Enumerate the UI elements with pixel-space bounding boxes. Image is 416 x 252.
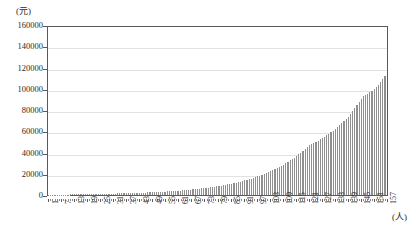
x-axis-tick-mark xyxy=(204,199,205,202)
x-axis-tick-label: 19 xyxy=(91,196,99,204)
x-axis-tick-mark xyxy=(87,199,88,202)
x-axis-tick-label: 37 xyxy=(130,196,138,204)
x-axis-tick-label: 13 xyxy=(78,196,86,204)
x-axis-tick-mark xyxy=(283,199,284,202)
x-axis-tick-mark xyxy=(165,199,166,202)
x-axis-tick-label: 67 xyxy=(195,196,203,204)
y-axis-tick-label: 120000 xyxy=(18,64,44,73)
x-axis-tick-mark xyxy=(191,199,192,202)
x-axis-tick-label: 139 xyxy=(351,192,359,204)
y-axis-tick-label: 80000 xyxy=(22,106,43,115)
x-axis-tick-label: 133 xyxy=(338,192,346,204)
x-axis-tick-mark xyxy=(374,199,375,202)
x-axis-tick-label: 55 xyxy=(169,196,177,204)
x-axis-tick-label: 121 xyxy=(312,192,320,204)
x-axis-tick-label: 91 xyxy=(247,196,255,204)
x-axis-tick-mark xyxy=(387,199,388,202)
bar xyxy=(384,76,386,195)
x-axis-tick-label: 151 xyxy=(377,192,385,204)
x-axis-tick-mark xyxy=(257,199,258,202)
x-axis-tick-label: 97 xyxy=(260,196,268,204)
x-axis-tick-mark xyxy=(126,199,127,202)
y-axis-tick-labels: 1600001400001200001000008000060000400002… xyxy=(0,0,43,252)
x-axis-tick-label: 103 xyxy=(273,192,281,204)
x-axis-tick-label: 73 xyxy=(208,196,216,204)
y-axis-tick-label: 40000 xyxy=(22,149,43,158)
x-axis-tick-label: 157 xyxy=(390,192,398,204)
x-axis-tick-label: 43 xyxy=(143,196,151,204)
x-axis-tick-mark xyxy=(139,199,140,202)
x-axis-tick-mark xyxy=(296,199,297,202)
x-axis-tick-label: 1 xyxy=(52,200,60,204)
x-axis-tick-label: 115 xyxy=(299,192,307,204)
x-axis-tick-mark xyxy=(48,199,49,202)
x-axis-tick-label: 7 xyxy=(65,200,73,204)
x-axis-tick-mark xyxy=(361,199,362,202)
y-axis-tick-mark xyxy=(43,196,47,197)
x-axis-tick-mark xyxy=(348,199,349,202)
x-axis-tick-mark xyxy=(178,199,179,202)
x-axis-tick-mark xyxy=(231,199,232,202)
x-axis-tick-mark xyxy=(322,199,323,202)
chart-container: (元) 160000140000120000100000800006000040… xyxy=(0,0,416,252)
x-axis-tick-mark xyxy=(335,199,336,202)
x-axis-tick-mark xyxy=(74,199,75,202)
x-axis-tick-mark xyxy=(61,199,62,202)
x-axis-tick-label: 61 xyxy=(182,196,190,204)
x-axis-tick-mark xyxy=(113,199,114,202)
x-axis-tick-mark xyxy=(244,199,245,202)
plot-area xyxy=(47,26,388,196)
bar-series xyxy=(48,27,387,195)
x-axis-tick-label: 127 xyxy=(325,192,333,204)
x-axis-tick-mark xyxy=(309,199,310,202)
x-axis-tick-label: 145 xyxy=(364,192,372,204)
x-axis-tick-label: 85 xyxy=(234,196,242,204)
x-axis-tick-mark xyxy=(100,199,101,202)
x-axis-tick-mark xyxy=(270,199,271,202)
x-axis-tick-mark xyxy=(218,199,219,202)
x-axis-tick-mark xyxy=(152,199,153,202)
y-axis-tick-label: 160000 xyxy=(18,21,44,30)
x-axis-tick-label: 49 xyxy=(156,196,164,204)
x-axis-tick-label: 109 xyxy=(286,192,294,204)
x-axis-tick-labels: 1713192531374349556167737985919710310911… xyxy=(47,199,388,239)
x-axis-tick-label: 25 xyxy=(104,196,112,204)
x-axis-unit-label: (人) xyxy=(392,212,407,222)
y-axis-tick-label: 140000 xyxy=(18,42,44,51)
y-axis-tick-label: 60000 xyxy=(22,127,43,136)
y-axis-tick-label: 100000 xyxy=(18,85,44,94)
y-axis-tick-label: 20000 xyxy=(22,170,43,179)
x-axis-tick-label: 79 xyxy=(221,196,229,204)
x-axis-tick-label: 31 xyxy=(117,196,125,204)
